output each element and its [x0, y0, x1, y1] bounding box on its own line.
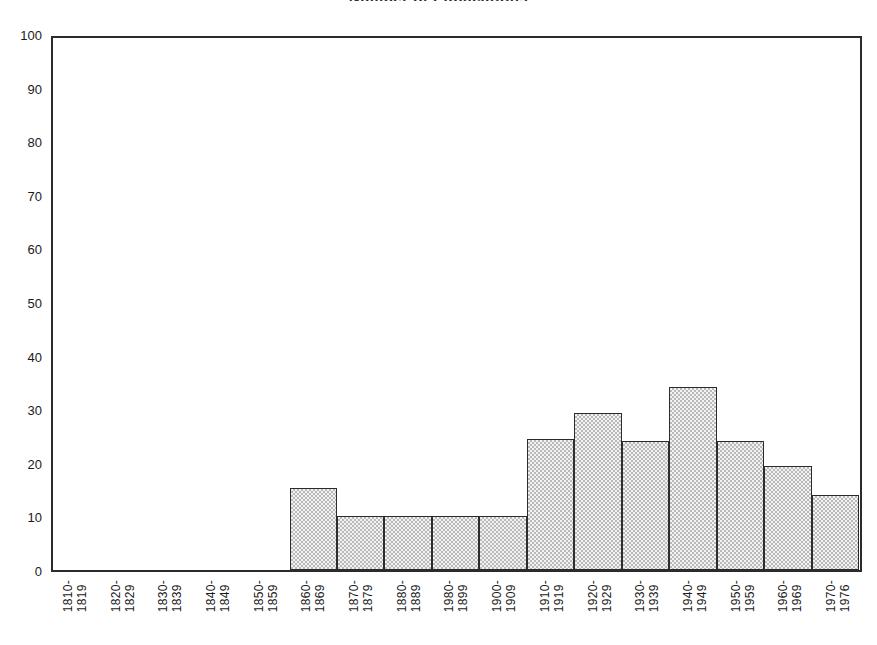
x-axis-tick-label-line: 1829 [123, 580, 136, 612]
bar-slot [385, 38, 432, 570]
y-axis-tick-label: 50 [28, 295, 42, 313]
x-axis-tick-label-line: 1909 [505, 580, 518, 612]
x-axis-tick-label-line: 1830- [157, 580, 170, 612]
x-axis-tick-label: 1960-1969 [777, 580, 804, 612]
x-axis-tick-label: 1910-1919 [538, 580, 565, 612]
x-axis-tick-label-line: 1820- [109, 580, 122, 612]
x-axis-tick-label-line: 1850- [252, 580, 265, 612]
x-axis-tick-label: 1930-1939 [634, 580, 661, 612]
x-axis-tick-label-line: 1880- [395, 580, 408, 612]
x-axis-tick: 1970-1976 [814, 576, 862, 645]
histogram-bar [764, 466, 811, 570]
bar-slot [575, 38, 622, 570]
histogram-bar [432, 516, 479, 570]
x-axis-tick: 1870-1879 [337, 576, 385, 645]
bar-slot [765, 38, 812, 570]
bar-slot [480, 38, 527, 570]
histogram-bar [574, 413, 621, 570]
x-axis-tick-label-line: 1810- [61, 580, 74, 612]
bar-slot [338, 38, 385, 570]
x-axis-tick: 1950-1959 [719, 576, 767, 645]
x-axis-tick: 1860-1869 [290, 576, 338, 645]
x-axis-tick-label: 1830-1839 [157, 580, 184, 612]
bar-slot [718, 38, 765, 570]
x-axis-tick-label-line: 1949 [695, 580, 708, 612]
x-axis-tick-label-line: 1959 [743, 580, 756, 612]
x-axis-tick: 1980-1899 [433, 576, 481, 645]
x-axis: 1810-18191820-18291830-18391840-18491850… [51, 576, 862, 645]
bar-slot [243, 38, 290, 570]
x-axis-tick-label-line: 1970- [825, 580, 838, 612]
x-axis-tick: 1940-1949 [671, 576, 719, 645]
x-axis-tick-label-line: 1969 [791, 580, 804, 612]
x-axis-tick-label: 1940-1949 [681, 580, 708, 612]
x-axis-tick-label-line: 1900- [491, 580, 504, 612]
x-axis-tick-label-line: 1910- [538, 580, 551, 612]
bar-slot [100, 38, 147, 570]
x-axis-tick-label-line: 1869 [314, 580, 327, 612]
x-axis-tick: 1910-1919 [528, 576, 576, 645]
x-axis-tick: 1880-1889 [385, 576, 433, 645]
x-axis-tick-label-line: 1819 [75, 580, 88, 612]
y-axis-tick-label: 70 [28, 188, 42, 206]
x-axis-tick: 1810-1819 [51, 576, 99, 645]
x-axis-tick-label-line: 1920- [586, 580, 599, 612]
x-axis-tick-label-line: 1976 [839, 580, 852, 612]
x-axis-tick-label: 1850-1859 [252, 580, 279, 612]
histogram-bar [622, 441, 669, 570]
y-axis-tick-label: 80 [28, 134, 42, 152]
x-axis-tick-label-line: 1879 [362, 580, 375, 612]
x-axis-tick-label-line: 1960- [777, 580, 790, 612]
y-axis-tick-label: 100 [20, 27, 42, 45]
x-axis-tick: 1850-1859 [242, 576, 290, 645]
chart-title-cropped: Number of Publications [0, 0, 877, 1]
histogram-bar [479, 516, 526, 570]
bar-slot [195, 38, 242, 570]
x-axis-tick-label-line: 1980- [443, 580, 456, 612]
x-axis-tick-label-line: 1919 [552, 580, 565, 612]
x-axis-tick: 1900-1909 [480, 576, 528, 645]
histogram-bar [669, 387, 716, 570]
x-axis-tick: 1830-1839 [146, 576, 194, 645]
bar-slot [290, 38, 337, 570]
y-axis-tick-label: 30 [28, 402, 42, 420]
x-axis-tick-label-line: 1870- [348, 580, 361, 612]
x-axis-tick-label: 1900-1909 [491, 580, 518, 612]
y-axis-tick-label: 0 [35, 563, 42, 581]
bar-slot [623, 38, 670, 570]
x-axis-tick: 1960-1969 [767, 576, 815, 645]
x-axis-tick: 1930-1939 [623, 576, 671, 645]
histogram-bar [812, 495, 859, 570]
bar-slot [528, 38, 575, 570]
histogram-figure: Number of Publications 01020304050607080… [0, 0, 877, 645]
x-axis-tick-label-line: 1930- [634, 580, 647, 612]
bar-slot [670, 38, 717, 570]
bar-slot [813, 38, 860, 570]
x-axis-tick-label: 1980-1899 [443, 580, 470, 612]
histogram-bar [337, 516, 384, 570]
y-axis-tick-label: 60 [28, 241, 42, 259]
histogram-bar [384, 516, 431, 570]
y-axis-tick-label: 10 [28, 509, 42, 527]
x-axis-tick-label-line: 1840- [204, 580, 217, 612]
histogram-bar [527, 439, 574, 570]
y-axis-tick-label: 40 [28, 349, 42, 367]
x-axis-tick-label: 1840-1849 [204, 580, 231, 612]
x-axis-tick-label-line: 1899 [457, 580, 470, 612]
histogram-bar [290, 488, 337, 570]
x-axis-tick-label: 1810-1819 [61, 580, 88, 612]
x-axis-tick-label: 1970-1976 [825, 580, 852, 612]
bar-slot [53, 38, 100, 570]
plot-area [51, 36, 862, 572]
x-axis-tick-label-line: 1939 [648, 580, 661, 612]
bar-slot [433, 38, 480, 570]
x-axis-tick-label: 1820-1829 [109, 580, 136, 612]
histogram-bar [717, 441, 764, 570]
y-axis: 0102030405060708090100 [0, 36, 51, 572]
x-axis-tick-label-line: 1839 [171, 580, 184, 612]
x-axis-tick: 1840-1849 [194, 576, 242, 645]
x-axis-tick-label-line: 1940- [681, 580, 694, 612]
bar-series [53, 38, 860, 570]
x-axis-tick-label: 1870-1879 [348, 580, 375, 612]
x-axis-tick-label-line: 1889 [409, 580, 422, 612]
